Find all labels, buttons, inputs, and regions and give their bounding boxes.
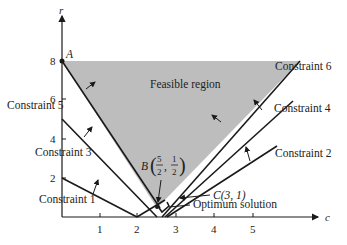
point-b-marker: [155, 205, 159, 209]
feasible-region-label: Feasible region: [150, 78, 221, 91]
constraint-2-arrow: [246, 147, 250, 161]
svg-text:(: (: [150, 154, 157, 177]
constraint-2-label: Constraint 2: [275, 147, 332, 159]
x-tick-2: 2: [134, 223, 140, 235]
constraint-1-arrow: [93, 180, 98, 194]
constraint-3-label: Constraint 3: [35, 146, 92, 158]
point-a-label: A: [65, 48, 74, 60]
x-tick-4: 4: [211, 223, 217, 235]
optimum-solution-label: Optimum solution: [193, 198, 277, 211]
x-tick-1: 1: [97, 223, 103, 235]
x-tick-5: 5: [250, 223, 256, 235]
x-tick-3: 3: [173, 223, 179, 235]
constraint-3-arrow: [84, 127, 92, 137]
svg-text:B: B: [141, 160, 148, 172]
constraint-1-line-b: [137, 200, 165, 217]
y-axis-label: r: [59, 4, 64, 16]
y-tick-4: 4: [50, 133, 56, 145]
svg-text:5: 5: [157, 154, 162, 164]
point-a-marker: [60, 59, 65, 64]
constraint-1-label: Constraint 1: [39, 193, 96, 205]
svg-text:,: ,: [164, 160, 167, 173]
svg-text:2: 2: [157, 167, 162, 177]
svg-text:): ): [179, 154, 186, 177]
svg-text:1: 1: [172, 154, 177, 164]
constraint-6-label: Constraint 6: [275, 60, 332, 72]
y-tick-8: 8: [50, 55, 56, 67]
y-tick-2: 2: [50, 172, 56, 184]
feasible-region-diagram: 1 2 3 4 5 2 4 6 8 r c A Feasible region …: [0, 0, 347, 245]
x-axis-label: c: [325, 211, 330, 223]
svg-text:2: 2: [172, 167, 177, 177]
constraint-5-label: Constraint 5: [7, 99, 64, 111]
constraint-4-label: Constraint 4: [274, 102, 331, 114]
